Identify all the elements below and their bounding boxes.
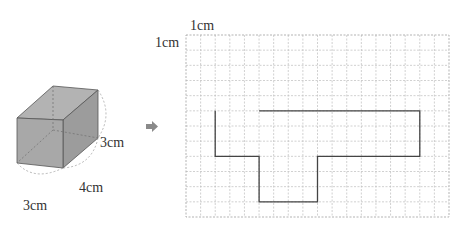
grid-paper: 1cm 1cm: [155, 18, 449, 217]
diagram-canvas: 3cm 4cm 3cm 1cm 1cm: [0, 0, 464, 236]
height-label: 3cm: [100, 135, 124, 150]
unit-label-left: 1cm: [155, 35, 179, 50]
width-label: 3cm: [23, 198, 47, 213]
cuboid: 3cm 4cm 3cm: [17, 86, 124, 213]
cuboid-front-face: [17, 118, 63, 168]
depth-label: 4cm: [79, 180, 103, 195]
unit-label-top: 1cm: [190, 18, 214, 33]
right-arrow-icon: [146, 121, 158, 132]
